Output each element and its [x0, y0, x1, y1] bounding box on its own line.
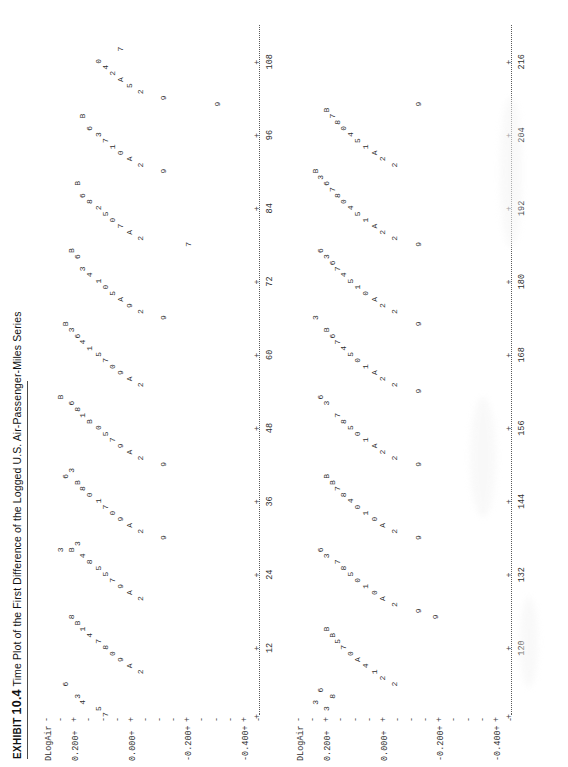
- data-point-label: 0: [102, 285, 110, 290]
- data-point-label: B: [68, 248, 76, 253]
- y-axis-minor-tick: -: [407, 717, 417, 722]
- data-point-label: 3: [74, 694, 82, 699]
- data-point-label: 7: [334, 560, 342, 565]
- data-point-label: 9: [415, 389, 423, 394]
- data-point-label: 3: [323, 553, 331, 558]
- data-point-label: 0: [86, 492, 94, 497]
- x-axis-tick: +: [253, 426, 263, 431]
- y-axis-minor-tick: -: [84, 717, 94, 722]
- y-axis-minor-tick: -: [421, 717, 431, 722]
- data-point-label: 1: [109, 144, 117, 149]
- x-tick-label: 84: [265, 203, 275, 213]
- x-axis-origin-tick: +: [505, 714, 515, 719]
- x-axis-tick: +: [505, 499, 515, 504]
- data-point-label: 9: [117, 517, 125, 522]
- y-axis-major-tick: +: [379, 717, 389, 722]
- data-point-label: B: [62, 321, 70, 326]
- y-axis-minor-tick: -: [113, 717, 123, 722]
- data-point-label: 9: [160, 169, 168, 174]
- data-point-label: 1: [95, 279, 103, 284]
- x-axis-tick: +: [505, 426, 515, 431]
- scan-artifact: [470, 397, 496, 517]
- data-point-label: 9: [214, 102, 222, 107]
- x-axis-tick: +: [253, 572, 263, 577]
- data-point-label: 6: [317, 395, 325, 400]
- data-point-label: 6: [317, 547, 325, 552]
- data-point-label: 8: [334, 193, 342, 198]
- exhibit-caption: EXHIBIT 10.4 Time Plot of the First Diff…: [10, 311, 24, 759]
- data-point-label: B: [323, 474, 331, 479]
- data-point-label: B: [79, 114, 87, 119]
- y-axis-major-tick: +: [240, 717, 250, 722]
- x-axis-line: [259, 25, 261, 715]
- x-axis-tick: +: [505, 572, 515, 577]
- scan-artifact: [520, 597, 538, 687]
- data-point-label: 5: [354, 138, 362, 143]
- data-point-label: A: [371, 370, 379, 375]
- x-tick-label: 156: [517, 421, 527, 436]
- data-point-label: 6: [86, 126, 94, 131]
- data-point-label: 9: [432, 615, 440, 620]
- data-point-label: 9: [160, 535, 168, 540]
- y-axis-major-tick: +: [322, 717, 332, 722]
- data-point-label: 2: [137, 382, 145, 387]
- data-point-label: 6: [317, 248, 325, 253]
- data-point-label: 3: [312, 700, 320, 705]
- data-point-label: B: [312, 169, 320, 174]
- x-tick-label: 144: [517, 494, 527, 509]
- data-point-label: 3: [68, 468, 76, 473]
- data-point-label: 0: [362, 291, 370, 296]
- y-tick-label: 0.200+: [71, 730, 81, 761]
- x-tick-label: 60: [265, 350, 275, 360]
- data-point-label: 9: [415, 321, 423, 326]
- data-point-label: A: [126, 663, 134, 668]
- y-axis-major-tick: +: [127, 717, 137, 722]
- y-axis-minor-tick: -: [294, 717, 304, 722]
- y-tick-label: -0.200+: [436, 725, 446, 761]
- data-point-label: 0: [95, 59, 103, 64]
- y-axis-minor-tick: -: [449, 717, 459, 722]
- data-point-label: 7: [334, 413, 342, 418]
- data-point-label: 8: [340, 566, 348, 571]
- data-point-label: 1: [362, 584, 370, 589]
- data-point-label: 9: [160, 462, 168, 467]
- data-point-label: 1: [354, 285, 362, 290]
- data-point-label: 9: [117, 584, 125, 589]
- data-point-label: 7: [109, 578, 117, 583]
- data-point-label: 4: [86, 273, 94, 278]
- x-axis-tick: +: [505, 60, 515, 65]
- y-axis-minor-tick: -: [351, 717, 361, 722]
- data-point-label: A: [126, 157, 134, 162]
- data-point-label: 5: [347, 352, 355, 357]
- data-point-label: A: [371, 224, 379, 229]
- data-point-label: 2: [137, 89, 145, 94]
- y-axis-minor-tick: -: [99, 717, 109, 722]
- data-point-label: 0: [109, 218, 117, 223]
- y-axis-minor-tick: -: [212, 717, 222, 722]
- data-point-label: 5: [95, 706, 103, 711]
- data-point-label: 6: [62, 682, 70, 687]
- data-point-label: 0: [354, 358, 362, 363]
- data-point-label: 0: [117, 150, 125, 155]
- data-point-label: B: [74, 181, 82, 186]
- data-point-label: 9: [415, 102, 423, 107]
- data-point-label: 2: [379, 450, 387, 455]
- data-point-label: 1: [362, 364, 370, 369]
- panel-bottom: DLogAir0.200+0.000+-0.200+-0.400+--+---+…: [300, 25, 512, 715]
- data-point-label: 0: [354, 431, 362, 436]
- x-axis-tick: +: [253, 279, 263, 284]
- data-point-label: 5: [126, 83, 134, 88]
- data-point-label: 0: [95, 425, 103, 430]
- y-axis-minor-tick: -: [464, 717, 474, 722]
- y-axis-minor-tick: -: [56, 717, 66, 722]
- data-point-label: 2: [109, 71, 117, 76]
- data-point-label: 7: [185, 242, 193, 247]
- data-point-label: B: [86, 419, 94, 424]
- data-point-label: B: [57, 395, 65, 400]
- data-point-label: 7: [102, 505, 110, 510]
- x-axis-tick: +: [505, 646, 515, 651]
- data-point-label: 7: [117, 47, 125, 52]
- data-point-label: 0: [354, 578, 362, 583]
- data-point-label: 2: [391, 682, 399, 687]
- y-tick-label: 0.000+: [380, 730, 390, 761]
